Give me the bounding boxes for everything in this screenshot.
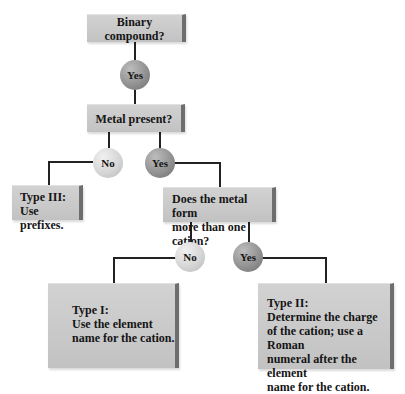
connector-no-type1-v bbox=[113, 257, 115, 283]
yes-circle-3: Yes bbox=[233, 242, 263, 272]
connector-no-type1-h bbox=[113, 257, 176, 259]
metal-present-label: Metal present? bbox=[96, 112, 173, 126]
yes-label: Yes bbox=[240, 251, 256, 263]
yes-label: Yes bbox=[127, 69, 143, 81]
no-circle-2: No bbox=[175, 242, 205, 272]
no-label: No bbox=[101, 157, 114, 169]
yes-label: Yes bbox=[152, 157, 168, 169]
binary-compound-label: Binary compound? bbox=[87, 15, 182, 43]
type-i-box: Type I: Use the element name for the cat… bbox=[48, 283, 179, 368]
metal-present-box: Metal present? bbox=[87, 104, 185, 132]
connector-no-type3-v bbox=[48, 161, 50, 185]
cation-question-label: Does the metal form more than one cation… bbox=[172, 192, 247, 248]
type-ii-label: Type II: Determine the charge of the cat… bbox=[267, 296, 378, 394]
connector-yes-cation-h bbox=[174, 162, 220, 164]
no-label: No bbox=[183, 251, 196, 263]
connector-cation-yes bbox=[248, 222, 250, 242]
connector-metal-yes bbox=[159, 131, 161, 148]
type-iii-label: Type III: Use prefixes. bbox=[20, 190, 66, 232]
connector-binary-yes bbox=[134, 41, 136, 60]
cation-question-box: Does the metal form more than one cation… bbox=[163, 187, 276, 222]
no-circle-1: No bbox=[93, 148, 123, 178]
connector-yes-metal bbox=[134, 89, 136, 104]
connector-no-type3-h bbox=[48, 161, 93, 163]
connector-yes-type2-h bbox=[262, 257, 326, 259]
connector-metal-no bbox=[108, 131, 110, 148]
connector-yes-type2-v bbox=[325, 257, 327, 283]
yes-circle-2: Yes bbox=[145, 148, 175, 178]
connector-yes-cation-v bbox=[219, 162, 221, 187]
binary-compound-box: Binary compound? bbox=[87, 14, 186, 42]
type-iii-box: Type III: Use prefixes. bbox=[12, 185, 83, 220]
type-ii-box: Type II: Determine the charge of the cat… bbox=[258, 283, 394, 369]
type-i-label: Type I: Use the element name for the cat… bbox=[72, 303, 174, 345]
yes-circle-1: Yes bbox=[120, 60, 150, 90]
